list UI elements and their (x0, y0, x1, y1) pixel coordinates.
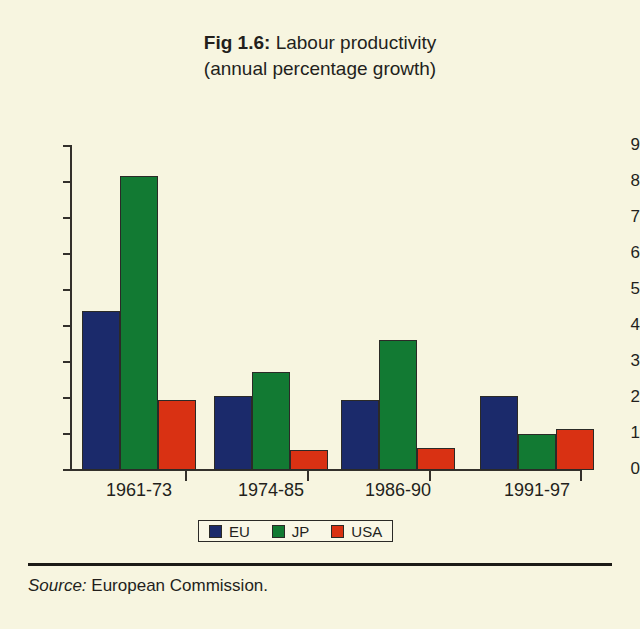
y-tick-label-7: 7 (586, 207, 640, 227)
legend-swatch-usa-icon (331, 525, 344, 538)
bar-usa-1986-90[interactable] (417, 448, 455, 470)
y-tick-label-9: 9 (586, 135, 640, 155)
source-label: Source: (28, 576, 87, 595)
x-label-1974-85: 1974-85 (201, 480, 341, 501)
y-tick-label-1: 1 (586, 423, 640, 443)
bar-jp-1991-97[interactable] (518, 434, 556, 470)
y-tick-4 (63, 325, 72, 327)
bar-usa-1961-73[interactable] (158, 400, 196, 470)
source-note: Source: European Commission. (28, 576, 268, 596)
bar-eu-1986-90[interactable] (341, 400, 379, 470)
legend-label-eu: EU (229, 524, 250, 539)
bar-jp-1986-90[interactable] (379, 340, 417, 470)
bar-jp-1961-73[interactable] (120, 176, 158, 470)
y-tick-0 (63, 469, 72, 471)
legend-item-jp[interactable]: JP (272, 524, 310, 539)
y-tick-8 (63, 181, 72, 183)
legend-label-jp: JP (292, 524, 310, 539)
legend-item-usa[interactable]: USA (331, 524, 382, 539)
y-tick-2 (63, 397, 72, 399)
legend-swatch-jp-icon (272, 525, 285, 538)
y-tick-label-8: 8 (586, 171, 640, 191)
y-tick-6 (63, 253, 72, 255)
bar-eu-1991-97[interactable] (480, 396, 518, 470)
bar-usa-1974-85[interactable] (290, 450, 328, 470)
y-tick-label-3: 3 (586, 351, 640, 371)
y-tick-3 (63, 361, 72, 363)
bar-usa-1991-97[interactable] (556, 429, 594, 470)
legend-item-eu[interactable]: EU (209, 524, 250, 539)
y-tick-label-5: 5 (586, 279, 640, 299)
bar-jp-1974-85[interactable] (252, 372, 290, 470)
y-tick-1 (63, 433, 72, 435)
y-tick-5 (63, 289, 72, 291)
y-tick-7 (63, 217, 72, 219)
legend-label-usa: USA (351, 524, 382, 539)
footer-divider (28, 563, 612, 566)
x-label-1986-90: 1986-90 (328, 480, 468, 501)
bar-eu-1961-73[interactable] (82, 311, 120, 470)
figure-panel: Fig 1.6: Labour productivity (annual per… (0, 0, 640, 629)
bar-eu-1974-85[interactable] (214, 396, 252, 470)
chart-legend: EU JP USA (198, 520, 393, 542)
legend-swatch-eu-icon (209, 525, 222, 538)
y-tick-9 (63, 145, 72, 147)
y-tick-label-6: 6 (586, 243, 640, 263)
source-text: European Commission. (91, 576, 268, 595)
y-tick-label-2: 2 (586, 387, 640, 407)
y-tick-label-4: 4 (586, 315, 640, 335)
x-label-1991-97: 1991-97 (467, 480, 607, 501)
y-tick-label-0: 0 (586, 459, 640, 479)
y-axis-line (70, 145, 72, 471)
x-label-1961-73: 1961-73 (69, 480, 209, 501)
